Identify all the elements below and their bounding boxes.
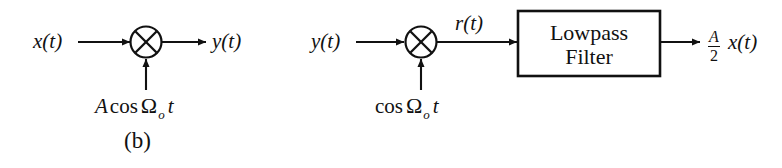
label-carrier-demodulator: cosΩot: [373, 95, 439, 117]
block-diagram-canvas: [0, 0, 782, 168]
multiplier-1: [131, 27, 162, 58]
carrier-omega-2: Ω: [403, 93, 422, 118]
figure-caption: (b): [124, 128, 151, 154]
label-output-y: y(t): [212, 31, 241, 52]
label-carrier-modulator: AcosΩot: [95, 95, 174, 117]
filter-label-line1: Lowpass: [518, 21, 660, 45]
carrier-function: cos: [108, 94, 138, 118]
fraction-numerator: A: [708, 29, 720, 47]
carrier-subscript-2: o: [422, 107, 430, 122]
lowpass-filter-label: Lowpass Filter: [518, 21, 660, 69]
carrier-subscript: o: [157, 107, 165, 122]
output-fraction-a-over-2: A 2: [708, 29, 720, 64]
carrier-omega: Ω: [138, 93, 157, 118]
carrier-variable: t: [165, 94, 174, 118]
label-intermediate-r: r(t): [455, 13, 483, 34]
carrier-amplitude: A: [95, 94, 108, 118]
carrier-variable-2: t: [430, 94, 439, 118]
fraction-denominator: 2: [708, 47, 720, 64]
carrier-function-2: cos: [373, 94, 403, 118]
label-input-x: x(t): [33, 31, 62, 52]
filter-label-line2: Filter: [518, 45, 660, 69]
label-output-x: x(t): [728, 32, 757, 53]
label-input-y: y(t): [311, 31, 340, 52]
multiplier-2: [406, 27, 437, 58]
